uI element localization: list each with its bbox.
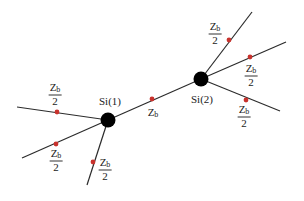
impedance-subscript: b bbox=[154, 110, 158, 119]
half-impedance-label: Zb 2 bbox=[209, 21, 222, 46]
node-label-si1: Si(1) bbox=[99, 96, 121, 107]
impedance-markers bbox=[54, 38, 253, 165]
impedance-symbol: Z bbox=[148, 106, 155, 118]
node-label-si2: Si(2) bbox=[191, 94, 213, 105]
branch-line bbox=[201, 42, 286, 79]
half-impedance-label: Zb 2 bbox=[238, 104, 251, 129]
atom-node-si2 bbox=[194, 72, 209, 87]
bond-impedance-diagram: Si(1) Si(2) Zb Zb 2 Zb 2 Zb 2 Zb 2 Zb 2 … bbox=[0, 0, 304, 201]
diagram-canvas bbox=[0, 0, 304, 201]
branch-line bbox=[22, 120, 108, 158]
bond-impedance-label: Zb bbox=[148, 107, 159, 119]
half-impedance-label: Zb 2 bbox=[49, 82, 62, 107]
half-impedance-label: Zb 2 bbox=[99, 157, 112, 182]
branch-line bbox=[17, 107, 108, 120]
impedance-marker bbox=[248, 55, 253, 60]
atom-node-si1 bbox=[101, 113, 116, 128]
impedance-marker bbox=[55, 110, 60, 115]
impedance-marker bbox=[227, 38, 232, 43]
impedance-marker bbox=[91, 160, 96, 165]
impedance-marker bbox=[150, 97, 155, 102]
half-impedance-label: Zb 2 bbox=[245, 63, 258, 88]
half-impedance-label: Zb 2 bbox=[50, 148, 63, 173]
